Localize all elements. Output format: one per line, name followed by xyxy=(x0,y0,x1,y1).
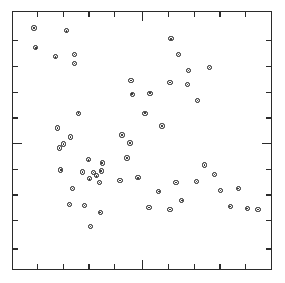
scatter-point xyxy=(218,188,223,193)
scatter-point xyxy=(53,54,58,59)
scatter-point xyxy=(135,175,140,180)
y-axis-tick-right xyxy=(266,248,271,249)
scatter-point xyxy=(202,162,207,167)
x-axis-tick-top xyxy=(63,12,64,17)
y-axis-tick-right xyxy=(266,40,271,41)
scatter-point xyxy=(94,173,99,178)
x-axis-tick-bottom xyxy=(168,264,169,269)
x-axis-tick-top xyxy=(37,12,38,17)
y-axis-tick-left xyxy=(13,220,18,221)
scatter-point xyxy=(70,186,75,191)
scatter-point xyxy=(99,168,104,173)
scatter-point xyxy=(173,180,178,185)
scatter-point xyxy=(33,45,38,50)
scatter-point xyxy=(176,52,181,57)
y-axis-tick-right xyxy=(266,194,271,195)
scatter-point xyxy=(55,125,60,130)
x-axis-tick-top xyxy=(245,12,246,17)
scatter-point xyxy=(100,160,105,165)
scatter-point xyxy=(130,92,135,97)
scatter-point xyxy=(57,145,62,150)
scatter-point xyxy=(167,80,172,85)
y-axis-tick-left xyxy=(13,66,18,67)
x-axis-tick-bottom xyxy=(37,264,38,269)
y-axis-tick-right xyxy=(266,117,271,118)
y-axis-tick-right xyxy=(266,66,271,67)
scatter-point xyxy=(72,52,77,57)
scatter-point xyxy=(142,111,147,116)
scatter-point xyxy=(186,68,191,73)
scatter-point xyxy=(31,25,36,30)
scatter-point xyxy=(80,169,85,174)
scatter-point xyxy=(207,65,212,70)
x-axis-tick-bottom xyxy=(63,264,64,269)
scatter-point xyxy=(124,155,129,160)
scatter-point xyxy=(146,205,151,210)
scatter-point xyxy=(255,207,260,212)
scatter-point xyxy=(245,206,250,211)
scatter-plot-figure xyxy=(0,0,285,283)
x-axis-tick-top xyxy=(219,12,220,17)
x-axis-tick-bottom xyxy=(114,264,115,269)
x-axis-tick-top xyxy=(194,12,195,17)
plot-area xyxy=(13,12,271,269)
scatter-point xyxy=(82,203,87,208)
y-axis-tick-left xyxy=(13,92,18,93)
scatter-point xyxy=(86,157,91,162)
scatter-point xyxy=(128,78,133,83)
x-axis-tick-bottom xyxy=(245,264,246,269)
y-axis-tick-left xyxy=(13,143,22,144)
y-axis-tick-right xyxy=(266,169,271,170)
scatter-point xyxy=(76,111,81,116)
y-axis-tick-right xyxy=(262,143,271,144)
scatter-point xyxy=(167,207,172,212)
scatter-point xyxy=(168,36,173,41)
x-axis-tick-bottom xyxy=(194,264,195,269)
scatter-point xyxy=(236,186,241,191)
scatter-point xyxy=(127,140,132,145)
scatter-point xyxy=(64,28,69,33)
plot-frame xyxy=(12,11,272,270)
scatter-point xyxy=(58,167,63,172)
y-axis-tick-left xyxy=(13,40,18,41)
x-axis-tick-top xyxy=(142,12,143,21)
scatter-point xyxy=(87,176,92,181)
scatter-point xyxy=(117,178,122,183)
x-axis-tick-bottom xyxy=(219,264,220,269)
scatter-point xyxy=(147,91,152,96)
scatter-point xyxy=(68,134,73,139)
scatter-point xyxy=(97,180,102,185)
x-axis-tick-bottom xyxy=(142,260,143,269)
scatter-point xyxy=(228,204,233,209)
scatter-point xyxy=(195,98,200,103)
x-axis-tick-top xyxy=(88,12,89,17)
scatter-point xyxy=(67,202,72,207)
x-axis-tick-bottom xyxy=(88,264,89,269)
scatter-point xyxy=(88,224,93,229)
scatter-point xyxy=(119,132,124,137)
scatter-point xyxy=(98,210,103,215)
x-axis-tick-top xyxy=(168,12,169,17)
y-axis-tick-left xyxy=(13,248,18,249)
scatter-point xyxy=(156,189,161,194)
y-axis-tick-right xyxy=(266,220,271,221)
scatter-point xyxy=(212,172,217,177)
y-axis-tick-left xyxy=(13,169,18,170)
y-axis-tick-left xyxy=(13,194,18,195)
scatter-point xyxy=(179,198,184,203)
scatter-point xyxy=(194,179,199,184)
y-axis-tick-right xyxy=(266,92,271,93)
y-axis-tick-left xyxy=(13,117,18,118)
scatter-point xyxy=(72,61,77,66)
x-axis-tick-top xyxy=(114,12,115,17)
scatter-point xyxy=(159,123,164,128)
scatter-point xyxy=(185,82,190,87)
